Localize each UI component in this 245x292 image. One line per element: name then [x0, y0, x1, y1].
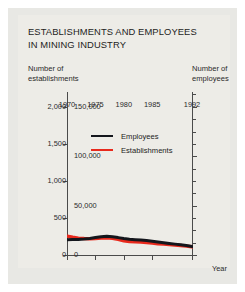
right-minor-tick [193, 230, 196, 231]
legend: Employees Establishments [91, 129, 173, 157]
right-tick [193, 206, 197, 207]
left-tick-label: 500 [54, 213, 66, 222]
plot-area: 05001,0001,5002,000050,000100,000150,000… [67, 92, 193, 256]
right-axis-header: Number of employees [192, 64, 245, 83]
right-minor-tick [193, 218, 196, 219]
legend-label-employees: Employees [121, 132, 159, 141]
page-title: ESTABLISHMENTS AND EMPLOYEES IN MINING I… [28, 26, 228, 51]
x-axis-caption: Year [212, 264, 227, 273]
right-minor-tick [193, 243, 196, 244]
right-minor-tick [193, 144, 196, 145]
right-minor-tick [193, 132, 196, 133]
x-tick-label: 1980 [110, 100, 138, 109]
x-tick-label: 1992 [178, 100, 206, 109]
x-tick [95, 256, 96, 260]
legend-label-establishments: Establishments [121, 146, 173, 155]
left-tick-label: 1,500 [48, 139, 67, 148]
left-tick-label: 1,000 [48, 176, 67, 185]
x-tick [124, 256, 125, 260]
legend-item-establishments: Establishments [91, 143, 173, 157]
x-tick [67, 256, 68, 260]
legend-swatch-establishments [91, 149, 113, 152]
right-tick [193, 156, 197, 157]
x-tick [192, 256, 193, 260]
right-tick [193, 255, 197, 256]
x-tick-label: 1970 [53, 100, 81, 109]
right-tick-label: 0 [74, 250, 78, 259]
right-minor-tick [193, 119, 196, 120]
legend-item-employees: Employees [91, 129, 173, 143]
right-minor-tick [193, 181, 196, 182]
right-minor-tick [193, 169, 196, 170]
left-axis-header: Number of establishments [28, 64, 120, 83]
legend-swatch-employees [91, 135, 113, 138]
x-tick-label: 1985 [138, 100, 166, 109]
x-tick-label: 1975 [81, 100, 109, 109]
left-tick-label: 0 [62, 250, 66, 259]
series-lines [67, 92, 193, 256]
right-tick-label: 50,000 [74, 201, 97, 210]
figure-panel: ESTABLISHMENTS AND EMPLOYEES IN MINING I… [8, 8, 237, 284]
right-minor-tick [193, 193, 196, 194]
right-minor-tick [193, 94, 196, 95]
x-tick [152, 256, 153, 260]
